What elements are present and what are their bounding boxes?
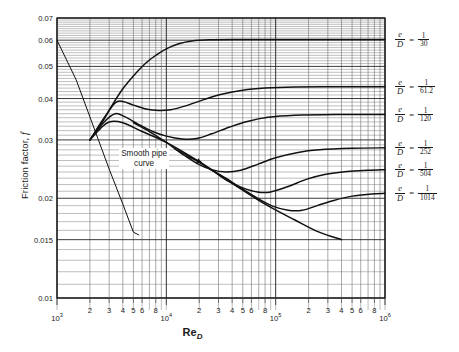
ed-value-denominator: 1014: [418, 193, 437, 202]
ed-value-numerator: 1: [423, 79, 431, 87]
curve-ed-1-252: [133, 123, 385, 172]
x-axis-title-sub: D: [197, 332, 203, 341]
ed-label-1-252: eD=1252: [395, 139, 433, 157]
relative-roughness-symbol: eD: [395, 78, 405, 96]
x-axis-title: ReD: [0, 326, 385, 341]
x-tick-label: 2: [306, 306, 310, 315]
x-tick-label: 8: [263, 306, 267, 315]
x-tick-label: 5: [131, 306, 135, 315]
curve-ed-1-120: [90, 114, 385, 140]
ed-numerator: e: [396, 78, 404, 87]
x-tick-label: 106: [379, 312, 391, 323]
ed-denominator: D: [395, 147, 405, 157]
ed-value-fraction: 1504: [418, 162, 433, 178]
x-tick-label: 104: [161, 312, 173, 323]
x-tick-label: 6: [249, 306, 253, 315]
equals-sign: =: [408, 143, 415, 153]
ed-denominator: D: [395, 86, 405, 96]
y-axis-title: Friction factor, f: [19, 96, 30, 236]
ed-value-numerator: 1: [422, 107, 430, 115]
relative-roughness-symbol: eD: [395, 184, 405, 202]
x-tick-label: 4: [230, 306, 234, 315]
x-tick-label: 3: [216, 306, 220, 315]
ed-value-numerator: 1: [420, 32, 428, 40]
ed-value-fraction: 161.2: [418, 79, 435, 95]
ed-value-denominator: 61.2: [418, 86, 435, 95]
ed-value-denominator: 252: [418, 147, 433, 156]
x-tick-label: 6: [359, 306, 363, 315]
y-axis-title-text: Friction factor,: [19, 138, 30, 199]
x-axis-title-text: Re: [183, 326, 197, 338]
equals-sign: =: [408, 110, 415, 120]
x-tick-label: 8: [372, 306, 376, 315]
curve-ed-1-1014: [210, 169, 385, 211]
smooth-note-line1: Smooth pipe: [121, 149, 167, 158]
ed-numerator: e: [396, 184, 404, 193]
ed-value-fraction: 130: [418, 32, 429, 48]
ed-label-1-504: eD=1504: [395, 161, 433, 179]
equals-sign: =: [408, 188, 415, 198]
ed-value-fraction: 1252: [418, 140, 433, 156]
y-tick-label: 0.07: [0, 14, 53, 23]
x-tick-label: 2: [197, 306, 201, 315]
x-tick-label: 6: [140, 306, 144, 315]
ed-value-numerator: 1: [422, 140, 430, 148]
ed-numerator: e: [396, 161, 404, 170]
relative-roughness-symbol: eD: [395, 30, 405, 48]
ed-label-1-61-2: eD=161.2: [395, 78, 435, 96]
ed-label-1-1014: eD=11014: [395, 184, 437, 202]
ed-value-denominator: 120: [418, 114, 433, 123]
ed-denominator: D: [395, 193, 405, 203]
curve-ed-1-504: [175, 149, 385, 193]
ed-numerator: e: [396, 139, 404, 148]
smooth-note-line2: curve: [121, 159, 167, 168]
ed-denominator: D: [395, 39, 405, 49]
ed-value-numerator: 1: [422, 162, 430, 170]
ed-numerator: e: [396, 30, 404, 39]
relative-roughness-symbol: eD: [395, 139, 405, 157]
x-tick-label: 8: [154, 306, 158, 315]
ed-value-denominator: 30: [418, 39, 429, 48]
friction-factor-chart-figure: 0.070.060.050.040.030.020.0150.01 103234…: [0, 0, 459, 352]
ed-value-denominator: 504: [418, 169, 433, 178]
ed-label-1-30: eD=130: [395, 30, 429, 48]
plot-frame: [57, 18, 385, 298]
relative-roughness-symbol: eD: [395, 161, 405, 179]
equals-sign: =: [408, 165, 415, 175]
x-tick-label: 3: [326, 306, 330, 315]
y-tick-label: 0.015: [0, 235, 53, 244]
x-tick-label: 3: [107, 306, 111, 315]
ed-label-1-120: eD=1120: [395, 105, 433, 123]
ed-value-fraction: 11014: [418, 185, 437, 201]
ed-denominator: D: [395, 169, 405, 179]
ed-value-numerator: 1: [423, 185, 431, 193]
grid-minor: [57, 18, 385, 298]
x-tick-label: 2: [88, 306, 92, 315]
relative-roughness-symbol: eD: [395, 105, 405, 123]
y-tick-label: 0.06: [0, 36, 53, 45]
curve-ed-1-61-2: [90, 87, 385, 140]
chart-canvas: [0, 0, 459, 352]
ed-numerator: e: [396, 105, 404, 114]
x-tick-label: 103: [51, 312, 63, 323]
smooth-pipe-curve-annotation: Smooth pipe curve: [119, 148, 169, 168]
ed-denominator: D: [395, 114, 405, 124]
ed-value-fraction: 1120: [418, 107, 433, 123]
y-tick-label: 0.05: [0, 62, 53, 71]
x-tick-label: 4: [339, 306, 343, 315]
grid-major: [57, 18, 385, 298]
x-tick-label: 5: [350, 306, 354, 315]
y-axis-title-symbol: f: [19, 132, 30, 135]
equals-sign: =: [408, 82, 415, 92]
x-tick-label: 105: [270, 312, 282, 323]
x-tick-label: 5: [241, 306, 245, 315]
y-tick-label: 0.01: [0, 294, 53, 303]
x-tick-label: 4: [121, 306, 125, 315]
equals-sign: =: [408, 35, 415, 45]
